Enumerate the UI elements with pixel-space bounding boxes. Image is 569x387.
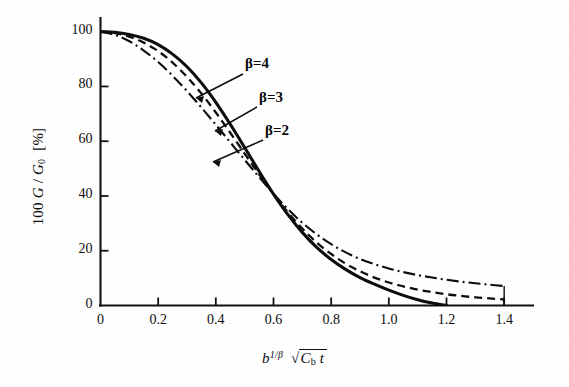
x-axis-label-exponent: 1/β [270,349,283,360]
figure-container: 0 0.2 0.4 0.6 0.8 1.0 1.2 1.4 0 20 40 60… [0,0,569,387]
y-tick-label-2: 40 [39,186,93,202]
y-axis-label-unit: [%] [30,128,46,151]
y-tick-label-3: 60 [39,131,93,147]
x-tick-label-0: 0 [76,312,126,328]
x-axis-label: b1/β √Cb t [262,349,327,367]
x-tick-label-7: 1.4 [479,312,529,328]
y-tick-label-5: 100 [39,22,93,38]
x-tick-label-3: 0.6 [249,312,299,328]
x-axis-label-cb: C [300,350,310,366]
y-axis-label: 100 G / G0 [%] [30,77,47,277]
x-tick-label-5: 1.0 [364,312,414,328]
x-tick-label-2: 0.4 [191,312,241,328]
x-axis-label-b: b [262,350,270,366]
y-axis-label-g: G [30,187,46,198]
annotation-beta-3: β=3 [259,89,283,106]
x-axis-ticks [158,298,504,306]
y-axis-label-g0-subscript: 0 [36,159,47,164]
y-tick-label-4: 80 [39,76,93,92]
x-axis-label-t: t [320,350,324,366]
x-tick-label-1: 0.2 [133,312,183,328]
annotation-beta-4: β=4 [245,55,269,72]
y-axis-label-g0: G [30,164,46,175]
series-line-beta-4 [101,32,447,306]
series-line-beta-3 [101,32,505,300]
y-axis-ticks [101,32,109,251]
series-group [101,32,505,306]
y-tick-label-1: 20 [39,241,93,257]
x-tick-label-6: 1.2 [422,312,472,328]
annotation-beta-2: β=2 [265,122,289,139]
y-axis-label-prefix: 100 [30,202,46,225]
x-tick-label-4: 0.8 [306,312,356,328]
series-line-beta-2 [101,32,505,286]
y-axis-label-sep: / [30,179,46,183]
y-tick-label-0: 0 [39,296,93,312]
